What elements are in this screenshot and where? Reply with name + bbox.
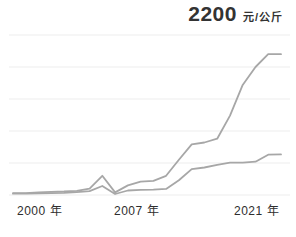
price-trend-chart-panel: 2200 元/公斤 2000 年 2007 年 2021 年 — [0, 0, 296, 237]
x-axis-label-2000: 2000 年 — [17, 201, 62, 218]
upper-price-line — [13, 54, 281, 193]
lower-price-line — [13, 154, 281, 194]
x-axis-label-2021: 2021 年 — [234, 201, 279, 218]
gridlines — [9, 35, 290, 195]
x-axis-label-2007: 2007 年 — [114, 201, 159, 218]
series-lines — [13, 54, 281, 194]
chart-title-value: 2200 — [188, 2, 237, 26]
chart-title-unit: 元/公斤 — [243, 8, 283, 24]
chart-title: 2200 元/公斤 — [188, 2, 283, 26]
